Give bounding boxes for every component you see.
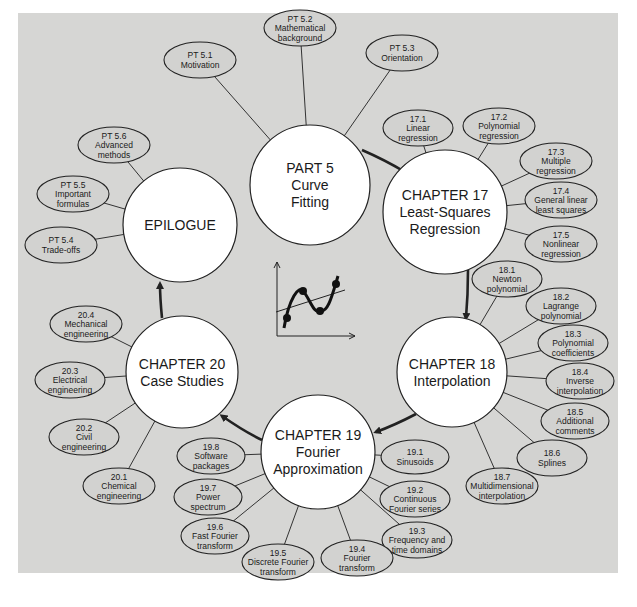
subtopic-node: 20.4Mechanicalengineering (50, 306, 122, 342)
hub-label: Least-Squares (399, 204, 490, 220)
subtopic-label: polynomial (487, 284, 528, 294)
subtopic-label: 19.6 (207, 522, 224, 532)
subtopic-label: Newton (493, 274, 522, 284)
subtopic-label: Polynomial (478, 121, 520, 131)
subtopic-node: 17.5Nonlinearregression (525, 226, 597, 262)
subtopic-label: engineering (48, 385, 93, 395)
subtopic-label: interpolation (557, 386, 604, 396)
subtopic-label: regression (536, 166, 576, 176)
data-point (283, 314, 291, 322)
subtopic-node: 17.3Multipleregression (520, 143, 592, 179)
subtopic-label: Chemical (101, 481, 137, 491)
subtopic-label: regression (541, 249, 581, 259)
subtopic-label: PT 5.6 (102, 131, 127, 141)
subtopic-label: Discrete Fourier (248, 557, 309, 567)
subtopic-label: Trade-offs (42, 245, 80, 255)
subtopic-label: comments (555, 426, 594, 436)
subtopic-label: Continuous (393, 494, 436, 504)
subtopic-node: 19.2ContinuousFourier series (380, 481, 450, 517)
subtopic-label: Fourier series (389, 504, 441, 514)
subtopic-node: 19.5Discrete Fouriertransform (242, 544, 314, 580)
subtopic-label: 18.3 (565, 329, 582, 339)
subtopic-node: 17.4General linearleast squares (525, 182, 597, 218)
subtopic-label: PT 5.2 (288, 14, 313, 24)
subtopic-label: methods (98, 150, 131, 160)
subtopic-label: 19.5 (270, 548, 287, 558)
subtopic-label: Linear (406, 123, 430, 133)
subtopic-label: 20.3 (62, 366, 79, 376)
subtopic-label: Advanced (95, 140, 133, 150)
hub-label: CHAPTER 18 (409, 356, 496, 372)
subtopic-node: 18.1Newtonpolynomial (472, 261, 542, 297)
subtopic-label: packages (193, 461, 229, 471)
subtopic-node: 18.2Lagrangepolynomial (526, 288, 596, 324)
subtopic-node: PT 5.4Trade-offs (25, 227, 97, 263)
subtopic-label: Polynomial (552, 338, 594, 348)
subtopic-label: 18.7 (494, 472, 511, 482)
interpolating-curve (284, 276, 338, 328)
subtopic-node: 18.6Splines (517, 440, 587, 476)
subtopic-node: PT 5.6Advancedmethods (78, 127, 150, 163)
subtopic-label: Civil (76, 432, 92, 442)
subtopic-label: Mathematical (275, 23, 326, 33)
subtopic-node: PT 5.1Motivation (164, 42, 236, 78)
subtopic-label: engineering (97, 491, 142, 501)
subtopic-node: 18.7Multidimensionalinterpolation (466, 468, 538, 504)
subtopic-label: 20.4 (78, 310, 95, 320)
subtopic-node: 19.3Frequency andtime domains (382, 522, 452, 558)
subtopic-label: least squares (536, 205, 587, 215)
subtopic-label: Frequency and (389, 535, 446, 545)
subtopic-label: 17.1 (410, 114, 427, 124)
subtopic-label: 19.3 (409, 526, 426, 536)
subtopic-label: Important (55, 189, 92, 199)
subtopic-node: 19.7Powerspectrum (174, 479, 242, 515)
subtopic-label: transform (260, 567, 296, 577)
hub-label: Curve (291, 177, 329, 193)
hub-label: Fourier (296, 444, 341, 460)
hub-label: EPILOGUE (144, 217, 216, 233)
hub-label: CHAPTER 17 (402, 187, 489, 203)
subtopic-label: Motivation (181, 60, 220, 70)
subtopic-label: 19.7 (200, 483, 217, 493)
data-point (316, 307, 324, 315)
hub-label: CHAPTER 20 (139, 356, 226, 372)
subtopic-label: 18.2 (553, 292, 570, 302)
subtopic-node: 17.2Polynomialregression (463, 108, 535, 144)
subtopic-label: 18.4 (572, 367, 589, 377)
subtopic-label: Nonlinear (543, 239, 580, 249)
subtopic-label: 18.1 (499, 265, 516, 275)
subtopic-node: 18.5Additionalcomments (541, 403, 609, 439)
subtopic-label: PT 5.5 (61, 180, 86, 190)
subtopic-label: engineering (62, 442, 107, 452)
flow-arrow-ch17-to-ch18 (466, 270, 468, 318)
subtopic-label: 18.6 (544, 448, 561, 458)
hub-label: Interpolation (413, 373, 490, 389)
subtopic-label: 17.4 (553, 186, 570, 196)
subtopic-label: 19.4 (349, 544, 366, 554)
subtopic-label: 19.1 (407, 447, 424, 457)
subtopic-node: 19.1Sinusoids (381, 440, 449, 474)
hub-part5: PART 5CurveFitting (250, 125, 370, 245)
subtopic-label: Fourier (344, 553, 371, 563)
hub-epilogue: EPILOGUE (123, 168, 237, 282)
hub-ch20: CHAPTER 20Case Studies (126, 316, 238, 428)
hub-label: Case Studies (140, 373, 223, 389)
data-point (332, 280, 340, 288)
subtopic-label: Splines (538, 458, 566, 468)
subtopic-node: 18.4Inverseinterpolation (546, 363, 614, 399)
subtopic-label: spectrum (191, 502, 226, 512)
subtopic-label: Mechanical (65, 319, 108, 329)
hub-label: PART 5 (286, 160, 334, 176)
subtopic-node: 18.3Polynomialcoefficients (538, 325, 608, 361)
subtopic-label: polynomial (541, 311, 582, 321)
flow-arrow-ch19-to-ch20 (222, 416, 262, 440)
subtopic-label: Multiple (541, 156, 571, 166)
subtopic-node: PT 5.3Orientation (366, 35, 438, 71)
subtopic-label: transform (197, 541, 233, 551)
subtopic-label: Orientation (381, 53, 423, 63)
subtopic-label: PT 5.1 (188, 50, 213, 60)
subtopic-label: 18.5 (567, 407, 584, 417)
hub-label: Regression (410, 221, 481, 237)
subtopic-label: Multidimensional (470, 481, 533, 491)
subtopic-label: Electrical (53, 375, 88, 385)
